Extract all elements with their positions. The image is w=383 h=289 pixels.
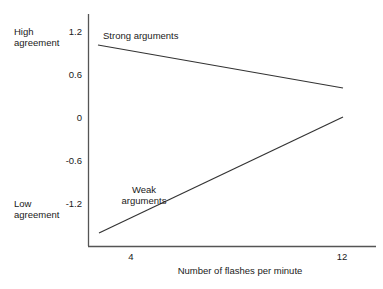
y-tick-label: -0.6 bbox=[48, 155, 82, 166]
y-anchor-high-line1: High bbox=[14, 26, 34, 38]
y-tick-label: 0 bbox=[48, 112, 82, 123]
x-tick-label: 12 bbox=[327, 251, 357, 262]
y-tick-label: 1.2 bbox=[48, 26, 82, 37]
chart-container: 1.2 0.6 0 -0.6 -1.2 High agreement Low a… bbox=[0, 0, 383, 289]
series-line-strong-arguments bbox=[98, 45, 343, 88]
series-line-weak-arguments bbox=[99, 117, 343, 233]
y-anchor-high-line2: agreement bbox=[14, 37, 59, 49]
y-anchor-low-line1: Low bbox=[14, 198, 31, 210]
series-label-weak-arguments-line1: Weak bbox=[118, 184, 170, 196]
x-tick-label: 4 bbox=[116, 251, 146, 262]
series-label-weak-arguments-line2: arguments bbox=[118, 195, 170, 207]
y-tick-label: 0.6 bbox=[48, 69, 82, 80]
series-label-strong-arguments: Strong arguments bbox=[103, 30, 179, 42]
y-anchor-low-line2: agreement bbox=[14, 209, 59, 221]
y-tick-label: -1.2 bbox=[48, 198, 82, 209]
x-axis-title: Number of flashes per minute bbox=[160, 265, 320, 277]
